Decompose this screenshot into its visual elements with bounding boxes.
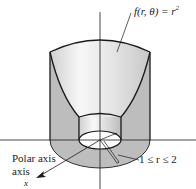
polar-axis-arrow-icon (36, 171, 46, 178)
range-label: 1 ≤ r ≤ 2 (139, 154, 177, 165)
x-axis-label: x (24, 179, 28, 188)
polar-axis-label: Polar axis (12, 153, 56, 164)
function-label: f(r, θ) = r2 (134, 5, 179, 17)
polar-axis-label-line2: axis (12, 166, 30, 177)
polar-integration-figure: f(r, θ) = r2 1 ≤ r ≤ 2 Polar axis axis x (0, 0, 196, 189)
